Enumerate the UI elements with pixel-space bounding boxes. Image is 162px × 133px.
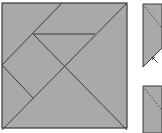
arrow-icon <box>152 57 158 63</box>
tangram-diagram <box>0 0 162 133</box>
piece-top <box>143 4 162 67</box>
side-pieces <box>143 4 162 133</box>
piece-bottom <box>143 86 162 133</box>
